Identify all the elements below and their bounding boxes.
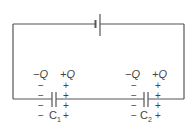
cap1-right-charge: +Q xyxy=(60,69,75,80)
cap1-plus-sign: + xyxy=(63,111,69,121)
cap1-label: C1 xyxy=(49,110,61,125)
capacitor-2-symbol xyxy=(144,92,148,107)
capacitor-1-symbol xyxy=(52,92,56,107)
cap2-minus-sign: − xyxy=(131,111,137,121)
cap2-plus-sign: + xyxy=(155,111,161,121)
battery-symbol xyxy=(96,14,101,36)
circuit-diagram xyxy=(0,0,195,129)
cap2-label: C2 xyxy=(140,110,152,125)
cap2-left-charge: −Q xyxy=(125,69,140,80)
cap2-right-charge: +Q xyxy=(152,69,167,80)
cap1-minus-sign: − xyxy=(38,111,44,121)
cap1-left-charge: −Q xyxy=(33,69,48,80)
